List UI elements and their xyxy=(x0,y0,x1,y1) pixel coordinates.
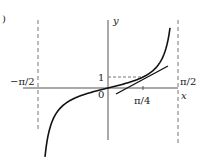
x-tick-label: π/4 xyxy=(134,95,150,106)
tangent-line xyxy=(116,66,168,94)
x-axis-label: x xyxy=(181,90,187,101)
panel-label: ) xyxy=(2,13,6,24)
y-tick-label: 1 xyxy=(98,72,104,83)
right-asymptote-label: π/2 xyxy=(180,76,196,87)
origin-label: 0 xyxy=(98,89,104,100)
tan-diagram: ) y x 0 1 π/4 −π/2 π/2 xyxy=(0,0,208,164)
y-axis-label: y xyxy=(112,15,119,26)
left-asymptote-label: −π/2 xyxy=(10,76,35,87)
